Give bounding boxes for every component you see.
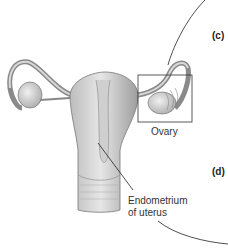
uterus-anatomy-illustration [0, 0, 228, 250]
panel-label-c: (c) [212, 30, 224, 41]
left-ovary [18, 82, 42, 108]
endometrium-label-line2: of uterus [128, 207, 167, 218]
ovary-label: Ovary [151, 126, 178, 137]
panel-label-d: (d) [212, 166, 225, 177]
callout-line-d [158, 221, 228, 244]
endometrium-label-line1: Endometrium [128, 195, 187, 206]
callout-line-c [168, 0, 205, 65]
right-ovary [148, 92, 176, 114]
